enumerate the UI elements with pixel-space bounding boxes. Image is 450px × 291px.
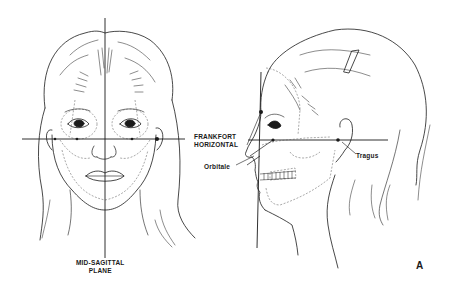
frankfort-label-line1: FRANKFORT [194, 133, 238, 141]
midsagittal-label-line1: MID-SAGITTAL [76, 259, 125, 267]
frankfort-label-line2: HORIZONTAL [194, 141, 238, 149]
panel-letter: A [416, 262, 423, 270]
orbitale-label: Orbitale [204, 163, 230, 171]
anatomical-planes-figure: FRANKFORT HORIZONTAL MID-SAGITTAL PLANE … [0, 0, 450, 291]
frankfort-horizontal-label: FRANKFORT HORIZONTAL [194, 133, 238, 148]
midsagittal-label-line2: PLANE [76, 267, 125, 275]
mid-sagittal-plane-label: MID-SAGITTAL PLANE [76, 259, 125, 274]
tragus-label: Tragus [356, 152, 379, 160]
